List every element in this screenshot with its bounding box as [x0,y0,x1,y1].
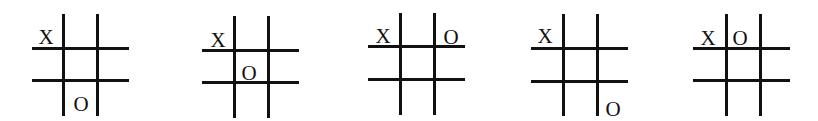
o-mark: O [72,94,90,115]
grid-vertical-line-1 [399,13,402,115]
x-mark: X [699,28,717,49]
o-mark: O [240,63,258,84]
x-mark: X [536,26,554,47]
grid-vertical-line-1 [62,14,65,116]
grid-horizontal-line-2 [693,79,790,82]
x-mark: X [374,26,392,47]
o-mark: O [604,99,622,120]
o-mark: O [442,27,460,48]
o-mark: O [731,28,749,49]
board-3: X O [368,0,468,121]
grid-vertical-line-2 [433,13,436,115]
board-4: X O [531,0,631,121]
grid-horizontal-line-2 [531,80,628,83]
grid-vertical-line-2 [267,16,270,118]
grid-vertical-line-1 [562,14,565,116]
grid-vertical-line-2 [96,14,99,116]
grid-vertical-line-2 [596,14,599,116]
x-mark: X [37,27,55,48]
board-5: X O [693,0,793,121]
grid-vertical-line-1 [725,14,728,116]
grid-vertical-line-1 [233,16,236,118]
grid-horizontal-line-2 [32,79,129,82]
x-mark: X [209,30,227,51]
board-2: X O [202,0,302,121]
grid-vertical-line-2 [759,14,762,116]
board-1: X O [32,0,132,121]
grid-horizontal-line-2 [368,78,465,81]
